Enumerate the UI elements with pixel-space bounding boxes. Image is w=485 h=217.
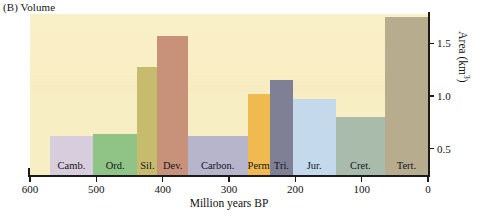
y-axis-tick bbox=[428, 95, 434, 96]
x-axis-tick bbox=[96, 176, 97, 182]
bar: Perm. bbox=[248, 94, 271, 175]
bar-label: Dev. bbox=[157, 161, 188, 172]
bar: Jur. bbox=[293, 99, 336, 175]
bar: Sil. bbox=[137, 67, 157, 175]
bar-label: Carbon. bbox=[188, 161, 248, 172]
bar-label: Camb. bbox=[50, 161, 93, 172]
plot-area: Camb.Ord.Sil.Dev.Carbon.Perm.Tri.Jur.Cre… bbox=[30, 14, 428, 175]
bar-label: Tri. bbox=[270, 161, 293, 172]
bar-label: Jur. bbox=[293, 161, 336, 172]
bar: Tri. bbox=[270, 80, 293, 175]
bar-label: Tert. bbox=[385, 161, 428, 172]
page-title: (B) Volume bbox=[3, 1, 55, 13]
x-axis-tick-label: 100 bbox=[353, 183, 370, 195]
bar: Tert. bbox=[385, 17, 428, 175]
figure-panel-b-volume: (B) Volume Camb.Ord.Sil.Dev.Carbon.Perm.… bbox=[0, 0, 485, 217]
bar-series: Camb.Ord.Sil.Dev.Carbon.Perm.Tri.Jur.Cre… bbox=[30, 14, 428, 175]
x-axis-tick bbox=[427, 176, 428, 182]
x-axis-tick bbox=[228, 176, 229, 182]
bar: Dev. bbox=[157, 36, 188, 175]
bar: Ord. bbox=[93, 134, 137, 175]
x-axis-tick-label: 300 bbox=[221, 183, 238, 195]
y-axis-title: Area (km3) bbox=[456, 31, 470, 82]
x-axis-tick bbox=[361, 176, 362, 182]
x-axis-tick bbox=[29, 176, 30, 182]
y-axis-title-tail: ) bbox=[456, 79, 468, 83]
y-axis-tick-label: 1.5 bbox=[437, 37, 451, 49]
y-axis-tick bbox=[428, 148, 434, 149]
x-axis-tick-label: 200 bbox=[287, 183, 304, 195]
bar-label: Cret. bbox=[336, 161, 385, 172]
x-axis-tick bbox=[162, 176, 163, 182]
x-axis-left-endcap bbox=[28, 168, 30, 176]
bar-label: Perm. bbox=[248, 161, 271, 172]
x-axis-tick bbox=[295, 176, 296, 182]
y-axis-title-text: Area (km bbox=[456, 31, 468, 75]
bar-label: Ord. bbox=[93, 161, 137, 172]
bar: Cret. bbox=[336, 117, 385, 175]
y-axis-tick bbox=[428, 43, 434, 44]
x-axis-tick-label: 500 bbox=[88, 183, 105, 195]
y-axis-tick-label: 0.5 bbox=[437, 143, 451, 155]
x-axis-title: Million years BP bbox=[0, 197, 458, 209]
x-axis-tick-label: 0 bbox=[425, 183, 431, 195]
y-axis-tick-label: 1.0 bbox=[437, 90, 451, 102]
bar: Camb. bbox=[50, 136, 93, 175]
bar: Carbon. bbox=[188, 136, 248, 175]
x-axis-tick-label: 600 bbox=[22, 183, 39, 195]
x-axis-tick-label: 400 bbox=[154, 183, 171, 195]
bar-label: Sil. bbox=[137, 161, 157, 172]
